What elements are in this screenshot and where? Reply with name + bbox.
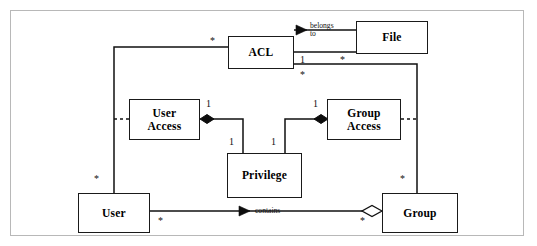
multiplicity-user-right: *	[158, 216, 163, 226]
multiplicity-user-top: *	[94, 174, 99, 184]
class-name-group-access-line2: Access	[347, 120, 381, 133]
association-label-belongs-to: belongs to	[310, 22, 334, 38]
multiplicity-acl-to-file: 1	[300, 55, 305, 65]
association-label-belongs-to-line2: to	[310, 29, 316, 38]
class-box-group-access[interactable]: Group Access	[327, 99, 401, 140]
multiplicity-acl-bottom: *	[300, 70, 305, 80]
multiplicity-user-access: 1	[206, 99, 211, 109]
multiplicity-file-left: *	[340, 55, 345, 65]
class-name-acl: ACL	[249, 46, 274, 59]
class-name-user-access-line1: User	[153, 107, 177, 120]
belongs-to-arrowhead	[296, 25, 307, 35]
connector-group-access-privilege	[285, 115, 328, 154]
aggregation-diamond-group	[362, 206, 382, 217]
connector-user-access-privilege	[200, 115, 243, 154]
class-box-user-access[interactable]: User Access	[129, 99, 200, 140]
class-box-group[interactable]: Group	[382, 193, 458, 233]
diagram-canvas: .ln { stroke: #111111; stroke-width: 1.5…	[0, 0, 537, 246]
contains-arrowhead	[239, 206, 250, 216]
class-name-user-access-line2: Access	[148, 120, 182, 133]
multiplicity-privilege-right: 1	[271, 137, 276, 147]
multiplicity-privilege-left: 1	[229, 137, 234, 147]
composition-diamond-user-access	[200, 115, 214, 124]
class-box-acl[interactable]: ACL	[228, 36, 294, 69]
multiplicity-group-access: 1	[313, 99, 318, 109]
multiplicity-group-top: *	[400, 174, 405, 184]
association-label-contains-line1: contains	[255, 206, 280, 215]
class-box-file[interactable]: File	[356, 21, 428, 54]
class-name-privilege: Privilege	[242, 169, 287, 182]
multiplicity-group-left: *	[360, 216, 365, 226]
composition-diamond-group-access	[314, 115, 328, 124]
class-name-group-access-line1: Group	[347, 107, 380, 120]
class-name-group: Group	[403, 207, 436, 220]
multiplicity-acl-left: *	[210, 36, 215, 46]
association-label-contains: contains	[255, 207, 280, 215]
class-name-file: File	[382, 31, 401, 44]
class-box-privilege[interactable]: Privilege	[227, 153, 302, 198]
class-box-user[interactable]: User	[78, 193, 150, 233]
class-name-user: User	[102, 207, 126, 220]
